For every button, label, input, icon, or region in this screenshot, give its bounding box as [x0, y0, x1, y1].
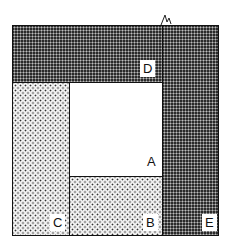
region-e	[162, 25, 219, 236]
label-d: D	[140, 60, 155, 77]
cut-mark-icon	[158, 13, 174, 27]
region-c	[12, 82, 70, 236]
label-b: B	[143, 214, 158, 231]
label-c: C	[50, 214, 65, 231]
label-a: A	[144, 153, 159, 170]
label-e: E	[202, 214, 217, 231]
